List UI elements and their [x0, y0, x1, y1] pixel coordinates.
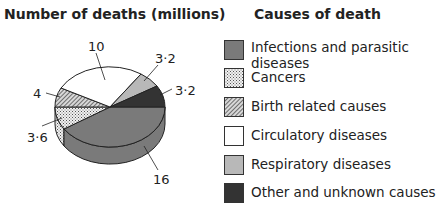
- legend-label-respiratory: Respiratory diseases: [251, 156, 391, 172]
- pie-chart: 10 3·2 3·2 4 3·6 16: [0, 0, 222, 218]
- legend-label-circulatory: Circulatory diseases: [251, 127, 387, 143]
- legend-title: Causes of death: [254, 6, 381, 22]
- label-respiratory: 3·2: [155, 51, 176, 66]
- legend-label-birth: Birth related causes: [251, 98, 386, 114]
- swatch-infections: [224, 40, 244, 60]
- swatch-respiratory: [224, 155, 244, 175]
- label-cancers: 3·6: [27, 130, 48, 145]
- label-circulatory: 10: [88, 39, 105, 54]
- label-birth: 4: [33, 86, 41, 101]
- legend-label-other: Other and unknown causes: [251, 184, 436, 200]
- swatch-cancers: [224, 68, 244, 88]
- legend-item-other: Other and unknown causes: [224, 183, 436, 203]
- legend-label-cancers: Cancers: [251, 69, 306, 85]
- swatch-circulatory: [224, 126, 244, 146]
- legend-item-infections: Infections and parasitic diseases: [224, 40, 409, 71]
- label-infections: 16: [153, 172, 170, 187]
- label-other: 3·2: [175, 83, 196, 98]
- legend-item-respiratory: Respiratory diseases: [224, 155, 391, 175]
- swatch-other: [224, 183, 244, 203]
- legend-item-cancers: Cancers: [224, 68, 306, 88]
- legend-label-infections-line1: Infections and parasitic: [251, 39, 409, 55]
- legend-item-birth: Birth related causes: [224, 97, 386, 117]
- pie-top: [55, 67, 165, 147]
- legend-item-circulatory: Circulatory diseases: [224, 126, 387, 146]
- swatch-birth: [224, 97, 244, 117]
